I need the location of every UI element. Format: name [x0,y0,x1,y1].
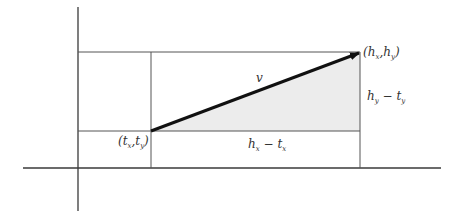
head-point-label: (hx,hy) [363,45,400,61]
dx-label: hx − tx [248,137,286,153]
dy-label: hy − ty [367,89,406,105]
vector-diagram: v (hx,hy) (tx,ty) hx − tx hy − ty [0,0,456,220]
tail-point-label: (tx,ty) [118,134,149,150]
vector-label: v [256,71,263,85]
